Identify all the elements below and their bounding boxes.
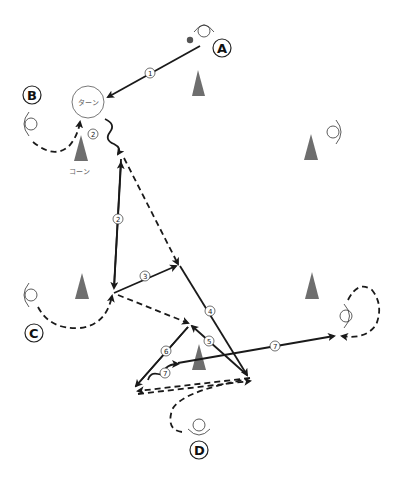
cone-top-right [304, 134, 318, 160]
turn-label: ターン [78, 98, 99, 107]
step-4: 4 [208, 308, 213, 316]
step-7b: 7 [273, 343, 277, 351]
soccer-ball-icon [187, 37, 193, 43]
cone-mid-right [305, 272, 319, 299]
player-c: C [24, 283, 43, 342]
drill-diagram: コーン ターン A B C D [0, 0, 395, 487]
cone-top-center [192, 70, 205, 96]
pass-7 [178, 336, 334, 363]
player-label-d: D [194, 443, 205, 458]
player-label-c: C [29, 326, 39, 341]
step-3: 3 [143, 273, 147, 281]
player-top-right [327, 120, 341, 144]
player-label-b: B [27, 88, 37, 103]
cone-bottom-center [192, 344, 206, 370]
cone-top-left [74, 135, 88, 161]
run-a [124, 158, 178, 264]
turn-marker: ターン [72, 86, 104, 118]
step-7a: 7 [163, 370, 167, 378]
player-label-a: A [217, 41, 227, 56]
step-1: 1 [148, 70, 152, 78]
run-b [33, 122, 80, 152]
run-forward [138, 381, 250, 394]
dribble-turn [105, 119, 119, 154]
player-b: B [23, 86, 41, 136]
pass-4 [180, 266, 247, 375]
player-a: A [187, 25, 231, 57]
step-2b: 2 [116, 216, 120, 224]
pass-2-return [114, 163, 121, 288]
step-2a: 2 [91, 131, 95, 139]
player-d: D [188, 419, 210, 459]
cone-mid-left [75, 273, 89, 299]
run-d [170, 380, 244, 432]
run-back [138, 378, 250, 391]
run-c [38, 296, 112, 328]
player-right [340, 304, 352, 328]
step-6: 6 [164, 348, 169, 356]
cone-caption: コーン [69, 168, 90, 176]
run-c2 [118, 295, 188, 323]
step-5: 5 [207, 338, 211, 346]
run-right [342, 287, 379, 337]
